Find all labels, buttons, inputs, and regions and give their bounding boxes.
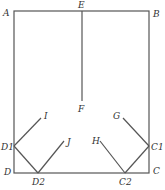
label-d2: D2 (31, 177, 45, 187)
geometry-diagram: A B E F I J G H D1 D D2 C1 C C2 (0, 0, 165, 190)
label-a: A (2, 8, 10, 18)
label-b: B (152, 9, 160, 19)
label-e: E (77, 0, 85, 10)
label-d: D (3, 167, 11, 177)
segment-d1-i (14, 118, 41, 146)
label-c2: C2 (119, 177, 132, 187)
segment-d1-d2 (14, 146, 38, 173)
label-d1: D1 (0, 142, 14, 152)
label-g: G (113, 111, 120, 121)
label-c1: C1 (151, 142, 164, 152)
segment-c1-g (123, 118, 149, 146)
segment-d2-j (38, 141, 64, 173)
label-i: I (43, 111, 48, 121)
label-c: C (153, 166, 160, 176)
segment-c2-h (100, 141, 125, 173)
segment-c1-c2 (125, 146, 149, 173)
label-f: F (77, 104, 85, 114)
label-h: H (91, 136, 100, 146)
label-j: J (65, 137, 72, 147)
